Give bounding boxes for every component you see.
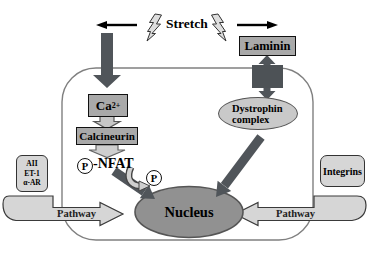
lightning-bolt-right-icon bbox=[212, 14, 227, 41]
receptor-et1-label: ET-1 bbox=[24, 169, 40, 179]
nucleus-label: Nucleus bbox=[135, 187, 243, 237]
calcineurin-box: Calcineurin bbox=[76, 127, 138, 145]
laminin-box: Laminin bbox=[239, 36, 296, 56]
diagram-canvas: Stretch Laminin Ca2+ Calcineurin P -NFAT… bbox=[0, 0, 379, 253]
calcium-superscript: 2+ bbox=[112, 101, 121, 110]
integrins-box: Integrins bbox=[320, 155, 365, 187]
lightning-bolt-left-icon bbox=[147, 14, 162, 41]
stretch-label: Stretch bbox=[166, 16, 208, 32]
nfat-label: -NFAT bbox=[93, 156, 134, 172]
receptor-aar-label: α-AR bbox=[23, 178, 41, 188]
dystrophin-line1: Dystrophin bbox=[232, 103, 297, 114]
calcium-label: Ca bbox=[96, 98, 112, 114]
calcium-box: Ca2+ bbox=[88, 94, 128, 117]
pathway-label-right: Pathway bbox=[276, 208, 315, 219]
pathway-label-left: Pathway bbox=[57, 208, 96, 219]
stretch-arrow-right-icon bbox=[237, 21, 278, 29]
nfat-phosphate-circle: P bbox=[77, 158, 93, 174]
stretch-arrow-left-icon bbox=[96, 21, 137, 29]
released-phosphate-circle: P bbox=[146, 170, 162, 186]
dystrophin-complex-ellipse: Dystrophin complex bbox=[218, 97, 298, 130]
transmembrane-complex bbox=[252, 65, 283, 88]
dystrophin-line2: complex bbox=[232, 114, 297, 125]
receptor-box: AII ET-1 α-AR bbox=[16, 155, 48, 192]
receptor-aii-label: AII bbox=[26, 159, 37, 169]
